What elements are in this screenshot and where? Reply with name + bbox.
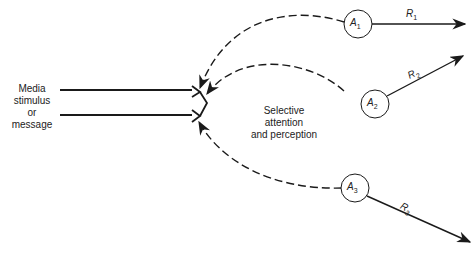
response-arrows	[367, 24, 470, 242]
center-label-line: and perception	[244, 129, 324, 141]
input-arrow	[60, 86, 207, 122]
center-label-line: attention	[244, 117, 324, 129]
node-a3-label: A3	[347, 181, 358, 194]
input-label: Media stimulus or message	[4, 83, 60, 131]
input-label-line: Media	[4, 83, 60, 95]
dashed-paths	[199, 15, 344, 188]
node-a2-label: A2	[367, 97, 378, 110]
diagram-canvas	[0, 0, 474, 261]
center-label: Selective attention and perception	[244, 105, 324, 141]
input-label-line: message	[4, 119, 60, 131]
response-r1-label: R1	[406, 8, 417, 21]
input-label-line: or	[4, 107, 60, 119]
input-label-line: stimulus	[4, 95, 60, 107]
node-a1-label: A1	[350, 17, 361, 30]
center-label-line: Selective	[244, 105, 324, 117]
node-circles	[341, 10, 389, 202]
